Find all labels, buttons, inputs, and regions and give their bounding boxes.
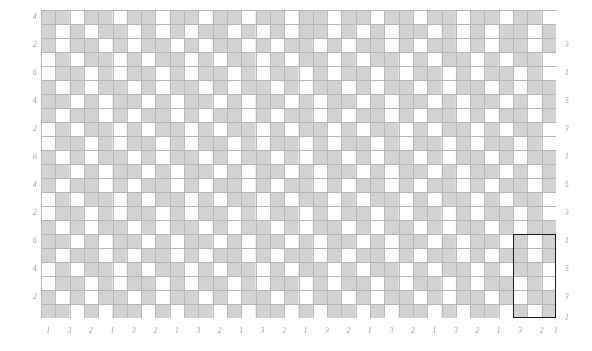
bottom-tick-9: 1 (239, 327, 243, 335)
bottom-tick-10: 3 (261, 327, 265, 335)
bottom-tick-17: 2 (411, 327, 415, 335)
bottom-tick-11: 2 (282, 327, 286, 335)
bottom-tick-2: 2 (89, 327, 93, 335)
bottom-tick-4: 3 (132, 327, 136, 335)
bottom-tick-12: 1 (304, 327, 308, 335)
bottom-tick-20: 2 (475, 327, 479, 335)
bottom-tick-23: 2 (540, 327, 544, 335)
bottom-tick-0: 1 (46, 327, 50, 335)
bottom-tick-3: 1 (111, 327, 115, 335)
bottom-tick-8: 2 (218, 327, 222, 335)
bottom-tick-18: 1 (432, 327, 436, 335)
bottom-tick-1: 3 (68, 327, 72, 335)
bottom-tick-24: 1 (554, 327, 558, 335)
bottom-tick-14: 2 (347, 327, 351, 335)
bottom-tick-22: 3 (518, 327, 522, 335)
bottom-tick-16: 3 (390, 327, 394, 335)
bottom-tick-21: 1 (497, 327, 501, 335)
bottom-tick-15: 1 (368, 327, 372, 335)
bottom-tick-13: 3 (325, 327, 329, 335)
bottom-axis-ticks: 1321321321321321321321321 (0, 0, 592, 351)
figure-root: 42642642642 31531531531 1321321321321321… (0, 0, 592, 351)
bottom-tick-7: 3 (196, 327, 200, 335)
bottom-tick-5: 2 (153, 327, 157, 335)
bottom-tick-19: 3 (454, 327, 458, 335)
bottom-tick-6: 1 (175, 327, 179, 335)
